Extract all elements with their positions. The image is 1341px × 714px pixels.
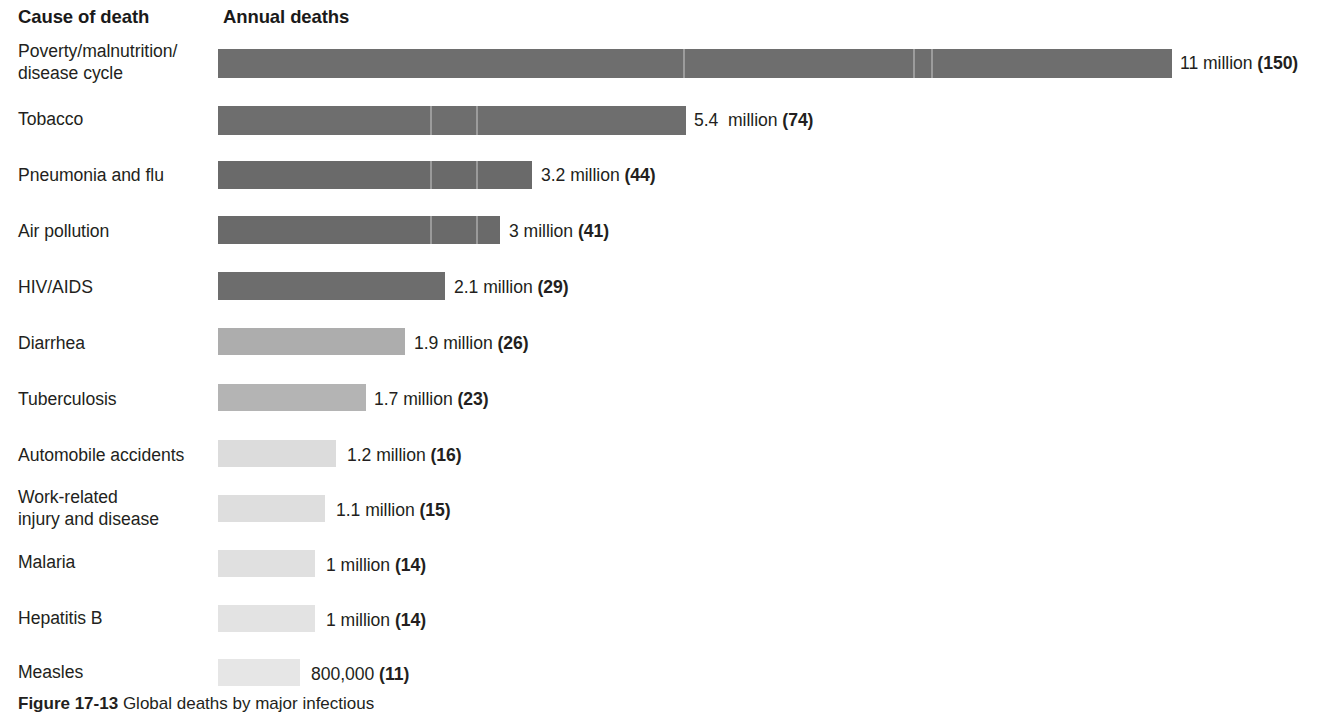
row-category-label: Tuberculosis [18,388,214,410]
bar-value-label: 2.1 million (29) [454,277,569,298]
bar-value-amount: 11 million [1180,53,1257,73]
row-category-label-line2: injury and disease [18,508,214,530]
bar-value-label: 1 million (14) [326,610,426,631]
row-category-label-line1: Work-related [18,486,214,508]
bar-value-label: 800,000 (11) [311,664,409,685]
bar-value-label: 1.9 million (26) [414,333,529,354]
bar-value-index: (26) [498,333,529,353]
bar-value-index: (16) [431,445,462,465]
chart-row: Malaria1 million (14) [0,548,1341,604]
row-category-label: Air pollution [18,220,214,242]
bar-value-index: (150) [1257,53,1298,73]
bar-value-label: 3 million (41) [509,221,609,242]
row-category-label: Pneumonia and flu [18,164,214,186]
bar-value-amount: 1.1 million [336,500,420,520]
bar-value-label: 1 million (14) [326,555,426,576]
bar [218,161,532,189]
bar-scan-seam [913,49,915,78]
column-header-cause-of-death: Cause of death [18,6,149,28]
row-category-label: Diarrhea [18,332,214,354]
bar-value-label: 1.2 million (16) [347,445,462,466]
row-category-label: Malaria [18,551,214,573]
bar-scan-seam [430,216,432,244]
bar [218,605,315,632]
row-category-label: Hepatitis B [18,607,214,629]
bar-value-label: 3.2 million (44) [541,165,656,186]
bar-value-index: (14) [395,610,426,630]
bar [218,440,336,467]
bar [218,659,300,686]
chart-row: HIV/AIDS2.1 million (29) [0,270,1341,326]
row-category-label-line1: Poverty/malnutrition/ [18,40,214,62]
bar-value-amount: 1.7 million [374,389,458,409]
bar-value-amount: 800,000 [311,664,379,684]
chart-header: Cause of death Annual deaths [0,6,1341,32]
bar-value-amount: 5.4 million [694,110,782,130]
chart-row: Diarrhea1.9 million (26) [0,326,1341,382]
bar-scan-seam [476,216,478,244]
row-category-label-line1: Pneumonia and flu [18,164,214,186]
bar [218,384,366,411]
row-category-label-line1: Measles [18,661,214,683]
bar-value-amount: 2.1 million [454,277,538,297]
row-category-label: Tobacco [18,108,214,130]
row-category-label-line1: Air pollution [18,220,214,242]
row-category-label: Work-relatedinjury and disease [18,486,214,530]
bar [218,216,500,244]
bar [218,106,686,135]
row-category-label-line1: Hepatitis B [18,607,214,629]
bar-value-label: 1.1 million (15) [336,500,451,521]
bar-value-index: (23) [458,389,489,409]
row-category-label-line2: disease cycle [18,62,214,84]
chart-row: Poverty/malnutrition/disease cycle11 mil… [0,36,1341,92]
chart-row: Air pollution3 million (41) [0,214,1341,270]
bar-value-index: (41) [578,221,609,241]
bar-scan-seam [931,49,933,78]
bar-scan-seam [476,161,478,189]
figure-caption-text: Global deaths by major infectious [118,694,374,713]
row-category-label-line1: Automobile accidents [18,444,214,466]
bar [218,328,405,355]
chart-row: Pneumonia and flu3.2 million (44) [0,158,1341,214]
figure-number: Figure 17-13 [18,694,118,713]
bar-value-amount: 3.2 million [541,165,625,185]
bar [218,272,445,300]
row-category-label-line1: Diarrhea [18,332,214,354]
bar-value-amount: 1.9 million [414,333,498,353]
bar [218,495,325,522]
bar-value-label: 11 million (150) [1180,53,1298,74]
bar-value-amount: 1 million [326,610,395,630]
row-category-label-line1: HIV/AIDS [18,276,214,298]
bar-scan-seam [430,106,432,135]
chart-row: Work-relatedinjury and disease1.1 millio… [0,486,1341,542]
bar [218,49,1172,78]
bar-scan-seam [430,161,432,189]
row-category-label: Poverty/malnutrition/disease cycle [18,40,214,84]
row-category-label-line1: Malaria [18,551,214,573]
figure-caption: Figure 17-13 Global deaths by major infe… [18,694,374,714]
bar-value-index: (44) [625,165,656,185]
row-category-label: HIV/AIDS [18,276,214,298]
chart-row: Tobacco5.4 million (74) [0,100,1341,156]
bar-value-index: (11) [379,664,409,684]
row-category-label: Measles [18,661,214,683]
bar-scan-seam [683,49,685,78]
bar-value-label: 5.4 million (74) [694,110,813,131]
bar-value-index: (14) [395,555,426,575]
bar [218,550,315,577]
bar-value-amount: 1.2 million [347,445,431,465]
bar-value-index: (15) [420,500,451,520]
bar-value-amount: 1 million [326,555,395,575]
row-category-label: Automobile accidents [18,444,214,466]
bar-value-amount: 3 million [509,221,578,241]
chart-row: Hepatitis B1 million (14) [0,604,1341,660]
row-category-label-line1: Tobacco [18,108,214,130]
bar-value-index: (29) [538,277,569,297]
column-header-annual-deaths: Annual deaths [223,6,349,28]
bar-value-label: 1.7 million (23) [374,389,489,410]
chart-row: Tuberculosis1.7 million (23) [0,382,1341,438]
row-category-label-line1: Tuberculosis [18,388,214,410]
bar-value-index: (74) [782,110,813,130]
bar-scan-seam [476,106,478,135]
